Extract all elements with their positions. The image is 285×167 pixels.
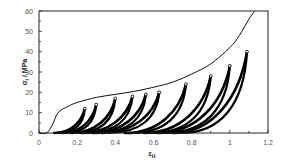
x-tick-label: 0.8 [187, 139, 197, 146]
loop-peak-marker [185, 83, 188, 86]
axis-ticks [39, 11, 268, 133]
x-axis-label: εH [149, 150, 156, 159]
loop-peak-marker [228, 65, 231, 68]
y-tick-label: 0 [29, 130, 33, 137]
x-tick-label: 0.4 [110, 139, 120, 146]
loop-peak-marker [209, 75, 212, 78]
loop-peak-marker [246, 50, 249, 53]
loop-peak-marker [83, 107, 86, 110]
y-tick-label: 20 [25, 89, 33, 96]
y-tick-label: 10 [25, 109, 33, 116]
loop-peak-marker [131, 95, 134, 98]
y-tick-label: 40 [25, 48, 33, 55]
y-tick-label: 60 [25, 8, 33, 15]
loop-peak-marker [95, 103, 98, 106]
x-tick-label: 0.6 [149, 139, 159, 146]
x-tick-label: 1.2 [263, 139, 273, 146]
stress-strain-chart: 0102030405060 00.20.40.60.811.2 σl / MPa… [0, 0, 285, 167]
plot-frame [39, 11, 268, 133]
x-tick-label: 0 [37, 139, 41, 146]
x-tick-label: 1 [228, 139, 232, 146]
cyclic-loops [54, 50, 248, 133]
x-tick-label: 0.2 [72, 139, 82, 146]
x-axis-tick-labels: 00.20.40.60.811.2 [37, 139, 273, 146]
loop-peak-marker [114, 97, 117, 100]
y-tick-label: 50 [25, 28, 33, 35]
loop-peak-marker [144, 93, 147, 96]
loop-peak-marker [158, 91, 161, 94]
loop-unloading-branch [166, 66, 230, 133]
